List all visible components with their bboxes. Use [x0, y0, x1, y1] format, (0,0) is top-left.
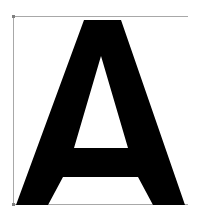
- glyph-svg: [0, 0, 199, 215]
- bottom-left-corner-marker: [12, 203, 15, 206]
- top-left-corner-marker: [12, 15, 15, 18]
- glyph-preview-canvas: A: [0, 0, 199, 215]
